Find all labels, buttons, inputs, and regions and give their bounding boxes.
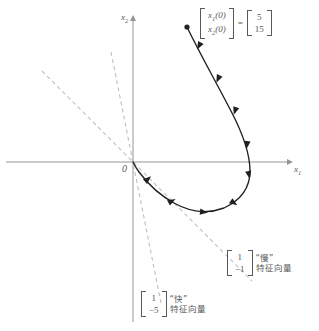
fast-eigenvector-caption-line1: “快” (170, 294, 206, 305)
initial-condition-lhs-vector: x1(0) x2(0) (200, 8, 234, 39)
slow-eigenvector-caption: “慢” 特征向量 (253, 253, 292, 274)
slow-eigenvector-component-1: 1 (238, 251, 243, 263)
origin-label: 0 (122, 163, 127, 174)
phase-portrait-figure: x2 x1 0 x1(0) x2(0) = 5 15 1 (0, 0, 319, 331)
initial-condition-x1: x1(0) (208, 9, 226, 23)
slow-eigenvector-component-2: −1 (235, 263, 245, 275)
bracket-right (229, 8, 234, 39)
trajectory-direction-arrows (143, 41, 253, 215)
initial-condition-rhs-vector: 5 15 (247, 10, 272, 36)
fast-eigenvector-line (111, 52, 161, 303)
fast-eigenvector-component-1: 1 (152, 292, 157, 304)
phase-plot-canvas (0, 0, 319, 331)
slow-eigenvector-annotation: 1 −1 “慢” 特征向量 (227, 250, 292, 276)
equals-sign: = (234, 19, 247, 28)
fast-eigenvector-annotation: 1 −5 “快” 特征向量 (141, 291, 206, 317)
initial-condition-value-2: 15 (255, 23, 264, 35)
trajectory-curve (133, 27, 250, 211)
initial-condition-x2: x2(0) (208, 23, 226, 37)
x-axis-label: x1 (294, 164, 301, 176)
fast-eigenvector-vector: 1 −5 (141, 291, 167, 317)
slow-eigenvector-caption-line1: “慢” (256, 253, 292, 264)
fast-eigenvector-component-2: −5 (149, 304, 159, 316)
initial-condition-annotation: x1(0) x2(0) = 5 15 (200, 8, 272, 39)
bracket-right (162, 291, 167, 317)
initial-condition-value-1: 5 (257, 11, 262, 23)
y-axis-label: x2 (121, 12, 128, 24)
bracket-right (248, 250, 253, 276)
initial-point-marker (184, 24, 189, 29)
slow-eigenvector-line (42, 71, 252, 281)
slow-eigenvector-vector: 1 −1 (227, 250, 253, 276)
bracket-right (267, 10, 272, 36)
slow-eigenvector-caption-line2: 特征向量 (256, 263, 292, 274)
fast-eigenvector-caption: “快” 特征向量 (167, 294, 206, 315)
fast-eigenvector-caption-line2: 特征向量 (170, 304, 206, 315)
